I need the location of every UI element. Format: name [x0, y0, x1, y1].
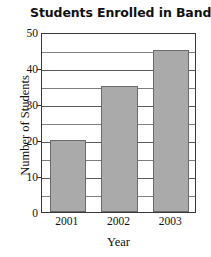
y-tick-label-10: 10: [14, 171, 38, 183]
bars-group: [42, 34, 195, 212]
x-tick-label-2002: 2002: [107, 215, 130, 227]
y-axis-tick-labels: 01020304050: [8, 33, 38, 213]
x-axis-tick-labels: 200120022003: [41, 215, 196, 233]
bar-2001: [50, 140, 86, 212]
y-tick-label-0: 0: [14, 207, 38, 219]
y-tick-label-40: 40: [14, 63, 38, 75]
chart-title: Students Enrolled in Band: [30, 5, 208, 20]
plot-area: [41, 33, 196, 213]
x-tick-label-2001: 2001: [55, 215, 78, 227]
bar-chart-figure: Students Enrolled in Band Number of Stud…: [0, 0, 211, 257]
bar-2002: [101, 86, 137, 212]
y-tick-label-20: 20: [14, 135, 38, 147]
y-tick-label-50: 50: [14, 27, 38, 39]
x-tick-label-2003: 2003: [159, 215, 182, 227]
bar-2003: [153, 50, 189, 212]
x-axis-title: Year: [41, 235, 196, 250]
y-tick-label-30: 30: [14, 99, 38, 111]
